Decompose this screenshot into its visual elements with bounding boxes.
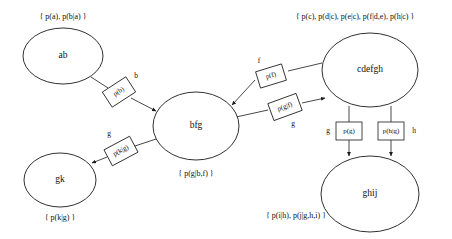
clique-potential-label: { p(g|b,f) }: [178, 169, 213, 178]
clique-label: ghij: [363, 188, 378, 198]
clique-edge: [236, 110, 268, 117]
clique-potential-label: { p(c), p(d|c), p(e|c), p(f|d,e), p(h|c)…: [296, 12, 415, 21]
separator-variable-letter: h: [412, 126, 416, 135]
clique-label: bfg: [190, 120, 203, 130]
clique-label: ab: [59, 50, 68, 60]
clique-node[interactable]: ab: [23, 28, 103, 84]
clique-potential-label: { p(i|h), p(j|g,h,i) }: [266, 211, 326, 220]
separator-variable-letter: b: [134, 71, 138, 80]
separator-node[interactable]: p(g)g: [326, 122, 362, 140]
junction-tree-diagram: abbfggkcdefghghij p(b)bp(k|g)gp(f)fp(g|f…: [0, 0, 452, 239]
separator-variable-letter: g: [291, 119, 295, 128]
clique-potential-label: { p(a), p(b|a) }: [39, 12, 86, 21]
separator-factor-text: p(g): [343, 127, 355, 135]
clique-node[interactable]: bfg: [153, 92, 239, 160]
clique-label: cdefgh: [357, 64, 383, 74]
clique-edge: [131, 98, 156, 111]
separator-variable-letter: g: [107, 129, 111, 138]
separator-node[interactable]: p(g|f)g: [268, 93, 302, 127]
clique-edge: [92, 157, 107, 163]
clique-edge: [232, 80, 255, 105]
separator-node[interactable]: p(f)f: [256, 56, 287, 88]
clique-node[interactable]: cdefgh: [322, 33, 418, 107]
separator-variable-letter: g: [326, 126, 330, 135]
separator-node[interactable]: p(h|g)h: [378, 122, 416, 140]
clique-edge: [288, 63, 322, 71]
clique-edge: [302, 98, 325, 103]
separator-node[interactable]: p(b)b: [102, 71, 138, 107]
clique-node[interactable]: ghij: [321, 156, 419, 232]
separator-node[interactable]: p(k|g)g: [104, 129, 138, 166]
clique-edge: [135, 138, 159, 146]
diagram-canvas: abbfggkcdefghghij p(b)bp(k|g)gp(f)fp(g|f…: [0, 0, 452, 239]
clique-label: gk: [55, 174, 65, 184]
clique-node[interactable]: gk: [24, 153, 96, 207]
clique-potential-label: { p(k|g) }: [45, 213, 76, 222]
separator-factor-text: p(h|g): [383, 127, 400, 135]
separator-variable-letter: f: [258, 56, 261, 65]
clique-edge: [91, 77, 108, 88]
